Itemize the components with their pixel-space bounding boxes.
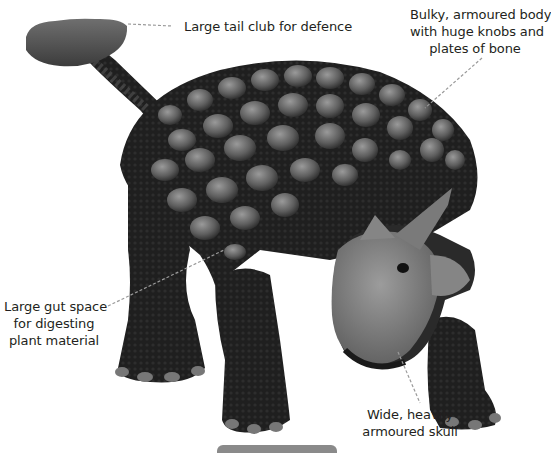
label-body-line-3: plates of bone: [410, 40, 540, 57]
label-body-line-2: with huge knobs and: [410, 23, 540, 40]
label-body-line-1: Bulky, armoured body: [410, 6, 540, 23]
bottom-tab-bar: [217, 445, 337, 453]
leader-line-tail-club: [128, 24, 172, 26]
label-gut: Large gut space for digesting plant mate…: [4, 298, 104, 349]
label-tail-club: Large tail club for defence: [184, 18, 352, 35]
label-gut-line-1: Large gut space: [4, 298, 104, 315]
label-tail-club-line-1: Large tail club for defence: [184, 18, 352, 35]
label-skull: Wide, heavily armoured skull: [340, 406, 480, 440]
label-body: Bulky, armoured body with huge knobs and…: [410, 6, 540, 57]
leader-line-body: [425, 58, 482, 108]
front-leg-left: [215, 269, 290, 434]
label-gut-line-2: for digesting: [4, 315, 104, 332]
label-skull-line-1: Wide, heavily: [340, 406, 480, 423]
label-gut-line-3: plant material: [4, 332, 104, 349]
label-skull-line-2: armoured skull: [340, 423, 480, 440]
